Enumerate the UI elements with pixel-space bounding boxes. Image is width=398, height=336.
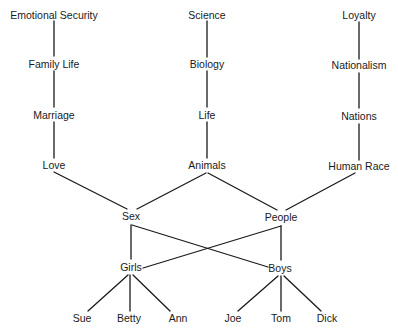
node-girls: Girls [120,261,142,273]
concept-diagram: Emotional Security Family Life Marriage … [0,0,398,336]
node-human-race: Human Race [328,160,389,172]
node-joe: Joe [225,312,242,324]
edge-girls-ann [133,275,170,311]
node-animals: Animals [188,159,225,171]
node-sex: Sex [122,210,140,222]
node-science: Science [188,9,225,21]
edge-sex-boys [132,225,268,267]
node-tom: Tom [271,312,291,324]
node-dick: Dick [317,312,337,324]
node-nations: Nations [341,110,377,122]
edge-human-race-people [286,173,355,210]
node-marriage: Marriage [33,109,74,121]
node-life: Life [199,109,216,121]
edge-boys-dick [284,276,321,311]
edge-animals-sex [137,173,206,209]
node-sue: Sue [73,312,92,324]
edge-girls-sue [88,275,128,311]
node-family-life: Family Life [29,58,80,70]
edge-people-girls [143,226,281,268]
node-love: Love [43,159,66,171]
node-betty: Betty [117,312,141,324]
node-nationalism: Nationalism [332,59,387,71]
node-loyalty: Loyalty [342,9,375,21]
edge-love-sex [54,172,127,209]
node-emotional-security: Emotional Security [10,9,98,21]
node-biology: Biology [190,58,224,70]
edge-boys-joe [238,276,278,311]
edge-animals-people [208,173,277,210]
node-ann: Ann [169,312,188,324]
node-boys: Boys [268,262,291,274]
node-people: People [265,211,298,223]
